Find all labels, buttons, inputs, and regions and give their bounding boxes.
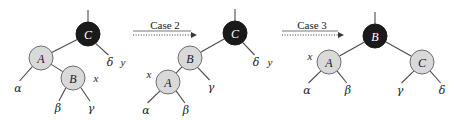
subtree-edge-γ bbox=[81, 87, 90, 101]
edge-B-C bbox=[386, 42, 412, 56]
subtree-edge-γ bbox=[198, 67, 210, 80]
tree-node-label-A: A bbox=[324, 56, 333, 70]
subtree-label: δ bbox=[253, 56, 260, 69]
subtree-edge-α bbox=[148, 91, 160, 103]
case-label: Case 2 bbox=[150, 19, 180, 31]
subtree-label: β bbox=[344, 84, 351, 97]
subtree-label: α bbox=[14, 82, 22, 95]
subtree-edge-α bbox=[20, 66, 33, 81]
subtree-edge-α bbox=[309, 71, 321, 83]
transition-2: Case 3 bbox=[282, 19, 344, 38]
pointer-label-y: y bbox=[267, 56, 273, 68]
edge-B-A bbox=[339, 42, 364, 56]
edge-C-A bbox=[52, 39, 78, 52]
subtree-edge-δ bbox=[243, 42, 255, 55]
tree-node-label-C: C bbox=[84, 28, 93, 42]
subtree-edge-δ bbox=[430, 71, 441, 83]
subtree-label: β bbox=[54, 102, 61, 115]
pointer-label-x: x bbox=[307, 50, 313, 62]
transition-1: Case 2 bbox=[133, 19, 197, 38]
tree-node-label-C: C bbox=[231, 27, 240, 41]
subtree-edge-δ bbox=[96, 43, 109, 55]
tree-node-label-A: A bbox=[36, 52, 45, 66]
subtree-edge-β bbox=[59, 88, 66, 101]
tree-node-label-B: B bbox=[69, 72, 77, 86]
tree-node-label-B: B bbox=[371, 30, 379, 44]
red-black-tree-rotation-figure: Case 2Case 3αβγδCABxyαβγδCBAxyαβγδBACx bbox=[0, 0, 458, 120]
edge-B-A bbox=[176, 67, 182, 73]
tree-node-label-C: C bbox=[418, 56, 427, 70]
tree-node-label-A: A bbox=[163, 76, 172, 90]
subtree-label: γ bbox=[397, 84, 404, 97]
tree-diagram-svg: Case 2Case 3αβγδCABxyαβγδCBAxyαβγδBACx bbox=[0, 0, 458, 120]
pointer-label-x: x bbox=[93, 72, 99, 84]
pointer-label-x: x bbox=[146, 68, 152, 80]
subtree-label: δ bbox=[439, 84, 446, 97]
subtree-edge-γ bbox=[402, 71, 414, 83]
subtree-label: γ bbox=[88, 102, 95, 115]
edge-C-B bbox=[200, 39, 224, 52]
tree-before: αβγδCABxy bbox=[14, 10, 125, 115]
diagram-render-root: Case 2Case 3αβγδCABxyαβγδCBAxyαβγδBACx bbox=[14, 9, 445, 117]
tree-node-label-B: B bbox=[186, 52, 194, 66]
subtree-edge-β bbox=[176, 91, 185, 103]
edge-A-B bbox=[51, 64, 63, 71]
subtree-label: β bbox=[182, 104, 189, 117]
pointer-label-y: y bbox=[120, 56, 126, 68]
transition-arrowhead bbox=[338, 32, 344, 38]
subtree-label: γ bbox=[208, 81, 215, 94]
subtree-edge-β bbox=[337, 71, 347, 83]
case-label: Case 3 bbox=[297, 19, 327, 31]
subtree-label: α bbox=[303, 84, 311, 97]
subtree-label: δ bbox=[107, 56, 114, 69]
subtree-label: α bbox=[142, 104, 150, 117]
transition-arrowhead bbox=[191, 32, 197, 38]
